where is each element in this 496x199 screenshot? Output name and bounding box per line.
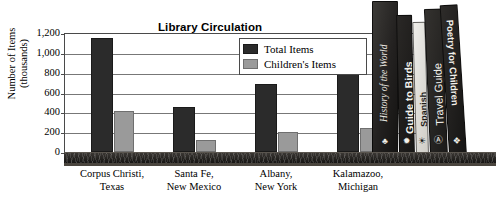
bookshelf-books-illustration: History of the World♣Guide to Birds✹Span… bbox=[372, 0, 496, 155]
book-decoration-icon: Ⓐ bbox=[434, 132, 444, 145]
chart-title: Library Circulation bbox=[158, 21, 262, 33]
x-axis-category-label-line: Michigan bbox=[303, 181, 413, 194]
book-title: Poetry for Children bbox=[444, 19, 460, 106]
y-axis-tick-mark bbox=[61, 54, 65, 55]
y-axis-title-line2: (thousands) bbox=[17, 9, 29, 119]
y-axis-tick-label: 1,200 bbox=[0, 27, 60, 38]
shelf-front-edge bbox=[64, 163, 496, 166]
y-axis-tick-mark bbox=[61, 74, 65, 75]
legend-item-childrens-items: Children's Items bbox=[243, 56, 363, 71]
x-axis-category-label: Kalamazoo,Michigan bbox=[303, 168, 413, 193]
y-axis-tick-mark bbox=[61, 113, 65, 114]
y-axis-tick-label: 1,000 bbox=[0, 47, 60, 58]
book-decoration-icon: ❖ bbox=[453, 135, 462, 145]
bar-childrens-items bbox=[278, 132, 298, 152]
bar-total-items bbox=[337, 74, 359, 152]
y-axis-tick-label: 400 bbox=[0, 106, 60, 117]
legend-label-total-items: Total Items bbox=[264, 43, 314, 55]
legend-swatch-childrens-items bbox=[243, 59, 258, 69]
library-circulation-chart: Number of Items (thousands) 020040060080… bbox=[0, 0, 496, 199]
bar-childrens-items bbox=[196, 140, 216, 152]
y-axis-tick-label: 0 bbox=[0, 146, 60, 157]
y-axis-tick-label: 200 bbox=[0, 126, 60, 137]
bar-total-items bbox=[255, 84, 277, 152]
book-decoration-icon: ✹ bbox=[403, 136, 411, 146]
book-decoration-icon: ♣ bbox=[382, 136, 388, 146]
legend-item-total-items: Total Items bbox=[243, 41, 363, 56]
x-axis-category-label-line: Kalamazoo, bbox=[303, 168, 413, 181]
bar-total-items bbox=[173, 107, 195, 152]
y-axis-tick-label: 600 bbox=[0, 87, 60, 98]
y-axis-tick-mark bbox=[61, 133, 65, 134]
y-axis-title: Number of Items (thousands) bbox=[6, 9, 29, 119]
chart-legend: Total Items Children's Items bbox=[239, 38, 367, 75]
book-spine: History of the World♣ bbox=[372, 1, 398, 155]
legend-label-childrens-items: Children's Items bbox=[264, 58, 336, 70]
y-axis-tick-mark bbox=[61, 34, 65, 35]
book-title: History of the World bbox=[379, 45, 389, 123]
legend-swatch-total-items bbox=[243, 44, 258, 54]
bar-childrens-items bbox=[114, 111, 134, 152]
y-axis-tick-mark bbox=[61, 94, 65, 95]
bar-total-items bbox=[91, 38, 113, 152]
y-axis-tick-label: 800 bbox=[0, 67, 60, 78]
book-decoration-icon: ☀ bbox=[418, 136, 426, 146]
